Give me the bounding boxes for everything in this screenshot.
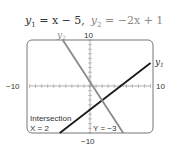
- y-max-label: 10: [84, 31, 93, 40]
- y-readout: Y = −3: [93, 124, 117, 133]
- y-min-label: −10: [81, 137, 95, 146]
- y1-line-label: y1: [154, 57, 164, 68]
- chart: −10 10 10 −10 y2 y1 Intersection X = 2 Y…: [0, 0, 173, 150]
- x-max-label: 10: [156, 82, 165, 91]
- intersection-label: Intersection: [30, 114, 71, 123]
- x-min-label: −10: [6, 82, 20, 91]
- x-readout: X = 2: [30, 124, 49, 133]
- y2-line-label: y2: [56, 30, 66, 41]
